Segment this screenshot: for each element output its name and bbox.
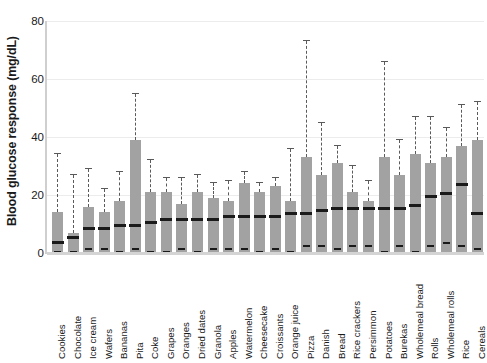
whisker-upper	[446, 128, 447, 157]
box-plot-pita	[130, 21, 141, 253]
median-line	[223, 215, 235, 218]
whisker-upper	[415, 117, 416, 155]
box-body	[176, 204, 187, 253]
x-tick-label-text: Danish	[320, 329, 331, 359]
median-line	[207, 218, 219, 221]
whisker-cap-upper	[287, 148, 294, 149]
x-axis-baseline	[47, 252, 484, 255]
y-tick-60: 60	[20, 73, 44, 85]
box-plot-pizza	[301, 21, 312, 253]
y-axis-title-text: Blood glucose response (mg/dL)	[5, 36, 19, 226]
whisker-cap-upper	[318, 122, 325, 123]
whisker-cap-upper	[272, 177, 279, 178]
whisker-cap-upper	[303, 40, 310, 41]
whisker-cap-lower	[474, 248, 481, 250]
median-line	[238, 215, 250, 218]
x-tick-label-text: Watermelon	[243, 308, 254, 359]
whisker-cap-upper	[474, 101, 481, 102]
whisker-upper	[321, 123, 322, 175]
box-plot-dried-dates	[192, 21, 203, 253]
median-line	[269, 215, 281, 218]
box-body	[192, 192, 203, 253]
whisker-upper	[228, 181, 229, 201]
box-body	[239, 183, 250, 253]
box-plot-granola	[208, 21, 219, 253]
box-body	[379, 157, 390, 253]
median-line	[98, 227, 110, 230]
median-line	[456, 183, 468, 186]
box-body	[301, 157, 312, 253]
whisker-cap-lower	[85, 248, 92, 250]
whisker-upper	[135, 94, 136, 140]
median-line	[394, 207, 406, 210]
whisker-upper	[290, 149, 291, 201]
x-tick-label-text: Cereals	[476, 326, 487, 359]
whisker-upper	[119, 172, 120, 201]
median-line	[176, 218, 188, 221]
x-tick-label-text: Dried dates	[196, 310, 207, 359]
box-plot-watermelon	[239, 21, 250, 253]
whisker-cap-lower	[427, 245, 434, 247]
whisker-cap-upper	[381, 61, 388, 62]
box-plot-wholemeal-bread	[410, 21, 421, 253]
whisker-cap-upper	[163, 177, 170, 178]
whisker-upper	[88, 169, 89, 207]
whisker-cap-lower	[178, 248, 185, 250]
whisker-cap-upper	[443, 127, 450, 128]
whisker-cap-lower	[365, 245, 372, 247]
whisker-cap-lower	[132, 248, 139, 250]
box-body	[52, 212, 63, 253]
whisker-cap-upper	[396, 139, 403, 140]
box-plot-oranges	[176, 21, 187, 253]
whisker-upper	[73, 175, 74, 233]
y-tick-40: 40	[20, 131, 44, 143]
median-line	[363, 207, 375, 210]
median-line	[425, 195, 437, 198]
box-body	[425, 163, 436, 253]
x-tick-label-text: Rice	[460, 340, 471, 359]
x-tick-label-text: Cookies	[56, 324, 67, 359]
median-line	[300, 212, 312, 215]
whisker-cap-lower	[225, 248, 232, 250]
plot-area	[47, 21, 484, 253]
box-plot-apples	[223, 21, 234, 253]
box-body	[285, 201, 296, 253]
whisker-cap-upper	[241, 171, 248, 172]
box-plot-cookies	[52, 21, 63, 253]
median-line	[440, 192, 452, 195]
box-body	[130, 140, 141, 253]
median-line	[191, 218, 203, 221]
median-line	[254, 215, 266, 218]
x-tick-label-text: Chocolate	[72, 316, 83, 359]
median-line	[285, 212, 297, 215]
whisker-cap-upper	[54, 153, 61, 154]
x-tick-label-text: Oranges	[180, 322, 191, 359]
whisker-upper	[306, 41, 307, 157]
whisker-cap-upper	[147, 159, 154, 160]
box-body	[223, 201, 234, 253]
median-line	[83, 227, 95, 230]
whisker-upper	[337, 146, 338, 163]
x-tick-label-text: Rolls	[429, 338, 440, 359]
whisker-cap-lower	[241, 248, 248, 250]
whisker-cap-lower	[303, 245, 310, 247]
box-plot-wafers	[99, 21, 110, 253]
whisker-cap-upper	[349, 165, 356, 166]
whisker-upper	[181, 178, 182, 204]
whisker-cap-lower	[349, 245, 356, 247]
box-plot-croissants	[270, 21, 281, 253]
whisker-upper	[150, 160, 151, 192]
x-tick-label-text: Granola	[212, 325, 223, 359]
median-line	[471, 212, 483, 215]
box-plot-bread	[332, 21, 343, 253]
box-plot-ice-cream	[83, 21, 94, 253]
box-body	[99, 212, 110, 253]
x-tick-label-text: Apples	[227, 330, 238, 359]
y-tick-20: 20	[20, 189, 44, 201]
box-plot-bananas	[114, 21, 125, 253]
whisker-upper	[384, 62, 385, 158]
y-axis-tick-labels: 020406080	[20, 0, 44, 262]
median-line	[52, 241, 64, 244]
box-body	[254, 192, 265, 253]
x-tick-label-text: Persimmon	[367, 310, 378, 359]
